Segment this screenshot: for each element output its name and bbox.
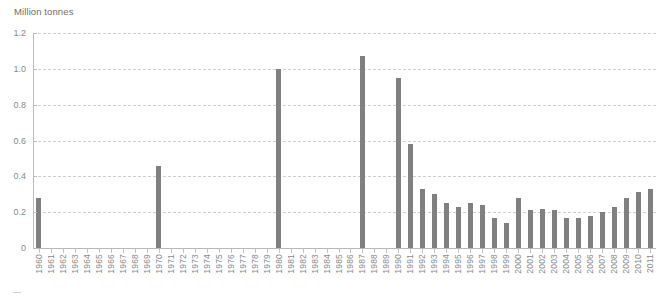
x-tick-1961 <box>51 249 52 253</box>
x-tick-label-1989: 1989 <box>381 254 391 274</box>
x-tick-label-2004: 2004 <box>561 254 571 274</box>
x-tick-1991 <box>410 249 411 253</box>
x-tick-label-1971: 1971 <box>166 254 176 274</box>
y-tick-mark-1.0 <box>33 69 37 70</box>
bar-chart: Million tonnes 00.20.40.60.81.01.2 19601… <box>0 0 667 300</box>
bar-2011[interactable] <box>648 189 653 248</box>
x-tick-2000 <box>518 249 519 253</box>
x-tick-label-2008: 2008 <box>609 254 619 274</box>
x-tick-2005 <box>578 249 579 253</box>
bar-1995[interactable] <box>456 207 461 248</box>
x-tick-1976 <box>231 249 232 253</box>
x-tick-label-1973: 1973 <box>190 254 200 274</box>
x-tick-1967 <box>123 249 124 253</box>
x-tick-2003 <box>554 249 555 253</box>
bar-1960[interactable] <box>36 198 41 248</box>
x-tick-label-1999: 1999 <box>501 254 511 274</box>
x-tick-label-1980: 1980 <box>274 254 284 274</box>
x-tick-1963 <box>75 249 76 253</box>
bar-2001[interactable] <box>528 210 533 248</box>
x-tick-label-1996: 1996 <box>465 254 475 274</box>
y-tick-mark-0.6 <box>33 141 37 142</box>
x-tick-1971 <box>171 249 172 253</box>
x-tick-label-1997: 1997 <box>477 254 487 274</box>
bar-2005[interactable] <box>576 218 581 248</box>
bar-1996[interactable] <box>468 203 473 248</box>
x-tick-label-2011: 2011 <box>645 254 655 273</box>
bar-2006[interactable] <box>588 216 593 248</box>
x-tick-1972 <box>183 249 184 253</box>
x-tick-label-2005: 2005 <box>573 254 583 274</box>
x-tick-label-1979: 1979 <box>262 254 272 274</box>
x-tick-label-2003: 2003 <box>549 254 559 274</box>
x-tick-1964 <box>87 249 88 253</box>
bars-layer <box>33 33 656 248</box>
x-tick-label-1977: 1977 <box>238 254 248 274</box>
x-tick-label-1988: 1988 <box>369 254 379 274</box>
bar-1997[interactable] <box>480 205 485 248</box>
x-tick-label-1969: 1969 <box>142 254 152 274</box>
x-axis-tick-labels: 1960196119621963196419651966196719681969… <box>33 254 656 298</box>
x-tick-2007 <box>602 249 603 253</box>
x-tick-1995 <box>458 249 459 253</box>
x-tick-label-1990: 1990 <box>393 254 403 274</box>
x-tick-label-1966: 1966 <box>106 254 116 274</box>
x-tick-1990 <box>398 249 399 253</box>
x-tick-1974 <box>207 249 208 253</box>
bar-1980[interactable] <box>276 69 281 248</box>
x-tick-2001 <box>530 249 531 253</box>
bar-1992[interactable] <box>420 189 425 248</box>
x-tick-1982 <box>303 249 304 253</box>
bar-1994[interactable] <box>444 203 449 248</box>
y-tick-label-1.0: 1.0 <box>13 64 26 74</box>
y-tick-label-0: 0 <box>21 243 26 253</box>
bar-2007[interactable] <box>600 212 605 248</box>
y-tick-label-0.4: 0.4 <box>13 171 26 181</box>
x-tick-label-1968: 1968 <box>130 254 140 274</box>
x-tick-label-1985: 1985 <box>334 254 344 274</box>
x-tick-1988 <box>374 249 375 253</box>
x-tick-label-2006: 2006 <box>585 254 595 274</box>
x-tick-1984 <box>327 249 328 253</box>
x-tick-1978 <box>255 249 256 253</box>
x-tick-label-1995: 1995 <box>453 254 463 274</box>
bar-2000[interactable] <box>516 198 521 248</box>
bar-1998[interactable] <box>492 218 497 248</box>
x-axis-ticks <box>33 249 656 253</box>
bar-2002[interactable] <box>540 209 545 248</box>
x-tick-1987 <box>362 249 363 253</box>
footnote-rule <box>13 292 21 293</box>
bar-1999[interactable] <box>504 223 509 248</box>
bar-2009[interactable] <box>624 198 629 248</box>
bar-2004[interactable] <box>564 218 569 248</box>
x-tick-label-2007: 2007 <box>597 254 607 274</box>
x-tick-label-1965: 1965 <box>94 254 104 274</box>
x-tick-label-1983: 1983 <box>310 254 320 274</box>
x-tick-label-1993: 1993 <box>429 254 439 274</box>
bar-1990[interactable] <box>396 78 401 248</box>
x-tick-1993 <box>434 249 435 253</box>
bar-1987[interactable] <box>360 56 365 248</box>
bar-2003[interactable] <box>552 210 557 248</box>
x-tick-label-2002: 2002 <box>537 254 547 274</box>
bar-1970[interactable] <box>156 166 161 248</box>
x-tick-1977 <box>243 249 244 253</box>
x-tick-label-1991: 1991 <box>405 254 415 274</box>
x-tick-label-1994: 1994 <box>441 254 451 274</box>
x-tick-1997 <box>482 249 483 253</box>
x-tick-2004 <box>566 249 567 253</box>
x-tick-1960 <box>39 249 40 253</box>
x-tick-1983 <box>315 249 316 253</box>
bar-1991[interactable] <box>408 144 413 248</box>
x-tick-label-1987: 1987 <box>357 254 367 274</box>
x-tick-1969 <box>147 249 148 253</box>
x-tick-1962 <box>63 249 64 253</box>
x-tick-label-1964: 1964 <box>82 254 92 274</box>
y-axis-title: Million tonnes <box>14 6 74 17</box>
bar-2008[interactable] <box>612 207 617 248</box>
bar-2010[interactable] <box>636 192 641 248</box>
x-tick-2002 <box>542 249 543 253</box>
y-tick-mark-0.8 <box>33 105 37 106</box>
bar-1993[interactable] <box>432 194 437 248</box>
x-tick-label-2000: 2000 <box>513 254 523 274</box>
